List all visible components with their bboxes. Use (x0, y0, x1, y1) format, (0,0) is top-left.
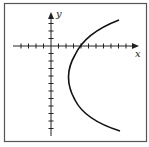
y-axis-label: y (55, 8, 62, 19)
graph-figure: x y (0, 0, 149, 147)
figure-frame (5, 4, 147, 142)
x-axis-label: x (135, 48, 141, 59)
